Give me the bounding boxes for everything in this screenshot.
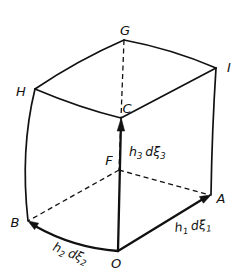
vector-h3-dxi3 [117, 118, 124, 251]
vertex-label-I: I [227, 60, 231, 75]
arrowhead-icon [117, 118, 124, 131]
scale-factor: h [129, 144, 137, 159]
edge-G-I [124, 40, 216, 68]
vertex-label-B: B [11, 215, 20, 230]
differential-index: 1 [206, 223, 212, 234]
scale-index: 1 [182, 226, 188, 237]
differential: dξ [145, 144, 161, 159]
edge-B-H [25, 89, 35, 221]
curvilinear-volume-element-diagram: G I H C F A B O h3dξ3 h1dξ1 h2dξ2 [0, 0, 251, 278]
vertex-label-A: A [216, 191, 226, 206]
differential-index: 3 [160, 151, 165, 161]
vector-label-h3-dxi3: h3dξ3 [129, 144, 166, 161]
vector-label-h2-dxi2: h2dξ2 [50, 239, 90, 269]
edge-C-I [121, 68, 216, 118]
vertex-label-C: C [122, 101, 132, 116]
vector-label-h1-dxi1: h1dξ1 [174, 216, 212, 237]
edge-A-I [211, 68, 216, 195]
vertex-label-G: G [120, 23, 130, 38]
edge-F-A-hidden [119, 170, 210, 195]
edge-H-C [35, 89, 121, 118]
vertex-label-F: F [105, 153, 113, 168]
vertex-label-O: O [111, 256, 121, 271]
edge-H-G [35, 40, 124, 89]
vector-O-C-shaft [118, 130, 121, 251]
arrowhead-icon [199, 195, 211, 203]
edge-F-B-hidden [28, 170, 119, 221]
scale-index: 3 [137, 151, 142, 161]
vertex-label-H: H [16, 84, 26, 99]
